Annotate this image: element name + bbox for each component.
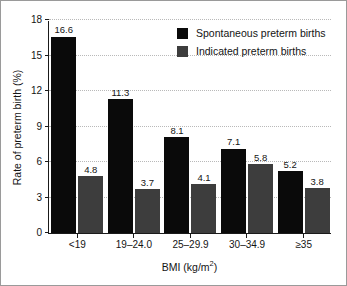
bar: 7.1 [221, 149, 246, 233]
y-axis-tick-mark [45, 19, 49, 20]
legend-item: Indicated preterm births [177, 43, 326, 59]
y-axis-tick-label: 15 [31, 51, 42, 61]
x-axis-tick-mark [190, 233, 191, 238]
y-axis-tick-label: 6 [36, 157, 42, 167]
y-axis-tick-label: 18 [31, 15, 42, 25]
legend-swatch [177, 28, 188, 39]
gridline [49, 19, 331, 20]
bar-value-label: 4.1 [197, 173, 210, 183]
x-axis-tick-label: 30–34.9 [229, 240, 265, 250]
bar-value-label: 11.3 [111, 88, 129, 98]
bar-value-label: 3.8 [311, 177, 324, 187]
x-axis-tick-mark [133, 233, 134, 238]
chart-figure: Rate of preterm birth (%) 0369121518 16.… [0, 0, 347, 286]
legend: Spontaneous preterm birthsIndicated pret… [177, 25, 326, 61]
y-axis-tick-label: 12 [31, 86, 42, 96]
y-axis-title: Rate of preterm birth (%) [9, 21, 25, 234]
bar-value-label: 4.8 [84, 165, 97, 175]
x-axis-tick-label: 19–24.0 [116, 240, 152, 250]
bar: 8.1 [164, 137, 189, 233]
bar: 4.1 [191, 184, 216, 233]
bar-value-label: 3.7 [141, 178, 154, 188]
legend-swatch [177, 46, 188, 57]
x-axis-tick-label: ≥35 [295, 240, 312, 250]
x-axis-tick-mark [303, 233, 304, 238]
y-axis-tick-label: 3 [36, 193, 42, 203]
bar: 5.2 [278, 171, 303, 233]
x-axis-title-base: BMI (kg/m [162, 261, 210, 273]
bar-value-label: 8.1 [170, 126, 183, 136]
bar-value-label: 16.6 [55, 25, 74, 35]
bar-group: 16.64.8<19 [49, 21, 106, 233]
bar: 5.8 [248, 164, 273, 233]
y-axis-tick-label: 0 [36, 228, 42, 238]
x-axis-tick-mark [77, 233, 78, 238]
legend-label: Spontaneous preterm births [196, 27, 326, 39]
bar-value-label: 5.2 [284, 160, 297, 170]
bar: 16.6 [51, 37, 76, 233]
bar-value-label: 5.8 [254, 153, 267, 163]
x-axis-title: BMI (kg/m2) [48, 259, 331, 273]
bar: 4.8 [78, 176, 103, 233]
bar: 11.3 [108, 99, 133, 233]
legend-label: Indicated preterm births [196, 45, 306, 57]
bar-group: 11.33.719–24.0 [106, 21, 163, 233]
bar-value-label: 7.1 [227, 137, 240, 147]
x-axis-tick-label: 25–29.9 [172, 240, 208, 250]
x-axis-title-tail: ) [214, 261, 218, 273]
bar: 3.8 [305, 188, 330, 233]
bar: 3.7 [135, 189, 160, 233]
x-axis-tick-mark [246, 233, 247, 238]
x-axis-tick-label: <19 [69, 240, 86, 250]
y-axis-tick-label: 9 [36, 122, 42, 132]
legend-item: Spontaneous preterm births [177, 25, 326, 41]
